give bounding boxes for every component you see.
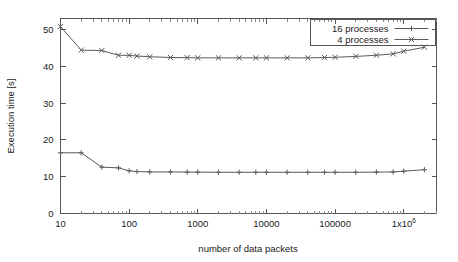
y-tick-label: 10: [43, 171, 54, 182]
x-tick-label: 100: [121, 218, 137, 229]
y-tick-label: 20: [43, 134, 54, 145]
x-tick-label: 10: [55, 218, 66, 229]
x-tick-label: 100000: [319, 218, 351, 229]
y-tick-label: 50: [43, 24, 54, 35]
y-tick-label: 0: [48, 208, 53, 219]
x-axis-title: number of data packets: [198, 243, 298, 254]
x-tick-label-exponent: 6: [412, 217, 416, 224]
y-tick-label: 40: [43, 61, 54, 72]
chart-background: [0, 0, 458, 262]
y-axis-title: Execution time [s]: [5, 79, 16, 154]
x-tick-label: 10000: [253, 218, 279, 229]
x-tick-label: 1000: [187, 218, 208, 229]
legend-label-1: 16 processes: [332, 23, 389, 34]
legend-label-2: 4 processes: [337, 34, 388, 45]
execution-time-line-chart: 01020304050 101001000100001000001x106 16…: [0, 0, 458, 262]
y-tick-label: 30: [43, 98, 54, 109]
chart-container: 01020304050 101001000100001000001x106 16…: [0, 0, 458, 262]
